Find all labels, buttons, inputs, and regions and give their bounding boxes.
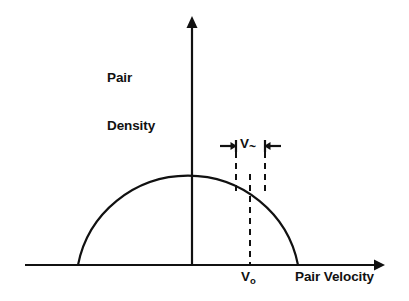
diagram-canvas [0, 0, 409, 301]
v0-subscript: o [250, 275, 256, 286]
y-axis-arrowhead [187, 16, 198, 28]
x-axis-label: Pair Velocity [295, 269, 374, 285]
v-width-subscript: ~ [249, 140, 256, 154]
pair-density-velocity-diagram: Pair Density Pair Velocity Vo V~ [0, 0, 409, 301]
x-axis-arrowhead [374, 260, 385, 271]
v0-symbol: V [241, 269, 250, 284]
y-axis-label-line2: Density [107, 118, 155, 134]
v-width-symbol: V [240, 136, 249, 151]
y-axis-label: Pair Density [107, 38, 155, 165]
v0-marker-label: Vo [241, 269, 256, 284]
v-width-label: V~ [240, 136, 256, 151]
y-axis-label-line1: Pair [107, 70, 155, 86]
